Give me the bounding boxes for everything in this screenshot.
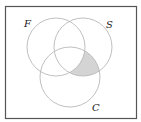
label-f: F (23, 18, 32, 29)
venn-diagram: F S C (0, 0, 141, 122)
label-c: C (92, 102, 100, 113)
label-s: S (106, 19, 113, 30)
